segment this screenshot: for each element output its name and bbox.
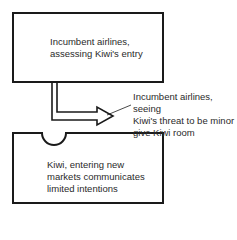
bottom-box-line: Kiwi, entering new (47, 159, 157, 171)
annotation-text: Incumbent airlines, seeing Kiwi's threat… (133, 91, 237, 139)
annotation-line: give Kiwi room (133, 127, 237, 139)
annotation-line: Incumbent airlines, seeing (133, 91, 237, 115)
top-box-text: Incumbent airlines, assessing Kiwi's ent… (50, 36, 160, 60)
annotation-pointer-line (107, 105, 131, 115)
bottom-box-line: markets communicates (47, 171, 157, 183)
annotation-line: Kiwi's threat to be minor (133, 115, 237, 127)
top-box-line: assessing Kiwi's entry (50, 48, 160, 60)
elbow-arrow-icon (52, 82, 113, 125)
bottom-box-text: Kiwi, entering new markets communicates … (47, 159, 157, 195)
top-box-line: Incumbent airlines, (50, 36, 160, 48)
bottom-box-line: limited intentions (47, 183, 157, 195)
